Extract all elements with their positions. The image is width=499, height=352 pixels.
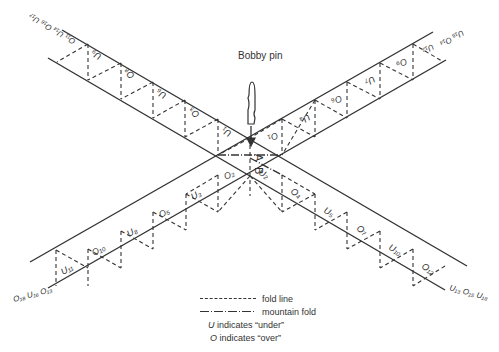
cell-se-6: O₁₂ — [420, 261, 437, 277]
cell-sw-1: O₂ — [222, 168, 237, 182]
cell-ne-5: O₉ — [394, 56, 409, 70]
dashed-line-icon — [200, 298, 256, 299]
bobby-pin-icon — [247, 82, 255, 146]
bobby-pin-label: Bobby pin — [238, 50, 282, 61]
cell-se-2: O₄ — [289, 186, 304, 200]
cell-nw-1: U₉ — [89, 48, 103, 62]
legend-fold-line-label: fold line — [262, 294, 293, 304]
cell-se-4: O₇ — [355, 223, 370, 237]
strip-nesw-top-edge — [30, 32, 433, 262]
label-a: A — [253, 154, 265, 162]
legend: fold line mountain fold U indicates “und… — [200, 292, 316, 344]
strip-nesw-bottom-edge — [48, 60, 446, 288]
legend-mountain-fold: mountain fold — [200, 305, 316, 318]
end-labels-ne-near: U₁₂ — [421, 42, 435, 55]
legend-u-note: U indicates “under” — [200, 318, 316, 331]
o-note-text: indicates “over” — [217, 333, 281, 343]
dash-dot-line-icon — [200, 310, 256, 312]
cell-ne-1: O₁ — [266, 130, 280, 144]
cell-ne-4: U₇ — [363, 74, 377, 88]
u-note-text: indicates “under” — [215, 320, 285, 330]
cell-se-3: U₅ — [322, 205, 336, 219]
end-labels-sw: O₁₈ U₁₆ O₁₃ — [12, 285, 53, 304]
end-labels-se: U₁₃ O₁₅ U₁₈ — [448, 283, 489, 302]
legend-o-note: O indicates “over” — [200, 331, 316, 344]
o-letter: O — [210, 333, 217, 343]
cell-nw-2: O₈ — [121, 67, 136, 81]
cell-nw-4: O₃ — [186, 106, 201, 120]
end-labels-ne-far: U₁₅ O₁₄ — [439, 28, 466, 49]
cell-nw-5: U₁ — [220, 126, 233, 139]
end-labels-nw: O₁₁ U₁₄ O₁₆ U₁₇ — [26, 11, 77, 46]
legend-fold-line: fold line — [200, 292, 316, 305]
cell-nw-3: U₆ — [154, 87, 168, 101]
cell-ne-3: O₆ — [329, 93, 344, 107]
cell-se-5: U₁₀ — [387, 242, 404, 257]
cell-sw-3: O₅ — [157, 206, 172, 220]
legend-mountain-fold-label: mountain fold — [262, 307, 316, 317]
